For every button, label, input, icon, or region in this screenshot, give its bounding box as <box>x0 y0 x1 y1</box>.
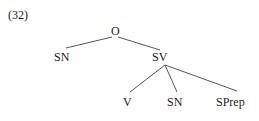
node-o: O <box>111 25 120 37</box>
edge-o-sn <box>66 37 112 48</box>
node-sv: SV <box>152 51 167 63</box>
node-sprep: SPrep <box>216 96 245 108</box>
node-sn-right: SN <box>167 96 182 108</box>
node-v: V <box>123 96 132 108</box>
node-sn-left: SN <box>54 51 69 63</box>
edge-sv-sprep <box>165 65 237 91</box>
edge-o-sv <box>118 37 160 50</box>
edge-sv-v <box>130 65 165 92</box>
